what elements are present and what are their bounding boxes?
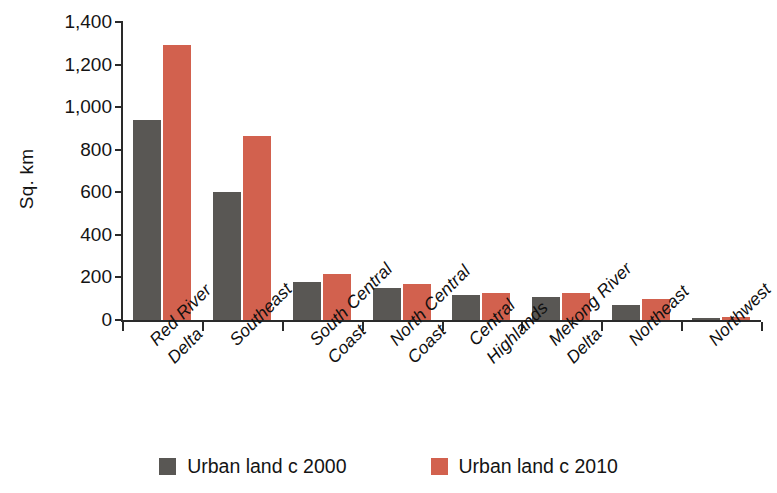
legend-label: Urban land c 2010 — [459, 455, 618, 478]
legend-item[interactable]: Urban land c 2000 — [159, 455, 346, 478]
chart-legend: Urban land c 2000Urban land c 2010 — [0, 455, 777, 478]
x-axis-tickmark — [122, 322, 124, 331]
bar-chart: Sq. km 02004006008001,0001,2001,400 Red … — [0, 0, 777, 493]
legend-swatch-icon — [431, 458, 448, 475]
legend-swatch-icon — [159, 458, 176, 475]
x-axis-tickmark — [282, 322, 284, 331]
bar-1-0 — [163, 45, 191, 320]
legend-label: Urban land c 2000 — [187, 455, 346, 478]
legend-item[interactable]: Urban land c 2010 — [431, 455, 618, 478]
bar-0-2 — [293, 282, 321, 320]
bar-0-0 — [133, 120, 161, 320]
x-axis-tickmark — [681, 322, 683, 331]
x-axis-tickmark — [761, 322, 763, 331]
